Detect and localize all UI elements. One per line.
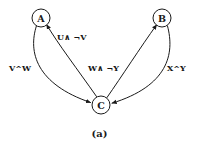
figure-caption: (a) [0, 128, 199, 139]
edge-b-c-path [112, 26, 170, 103]
edge-c-b: W∧ ¬Y [87, 25, 157, 98]
edge-c-b-label: W∧ ¬Y [87, 63, 119, 73]
edge-b-c: X^Y [112, 26, 186, 103]
edge-c-a: U∧ ¬V [47, 25, 97, 97]
edge-c-a-label: U∧ ¬V [57, 32, 87, 42]
node-a-label: A [36, 13, 45, 24]
node-b[interactable]: B [153, 9, 171, 27]
edge-a-c-label: V^W [8, 63, 32, 73]
node-c[interactable]: C [92, 96, 110, 114]
node-c-label: C [97, 100, 105, 111]
node-b-label: B [158, 13, 166, 24]
figure-container: V^W U∧ ¬V W∧ ¬Y X^Y A B C [0, 0, 199, 154]
node-a[interactable]: A [32, 9, 50, 27]
edge-c-b-path [107, 25, 157, 98]
edge-b-c-label: X^Y [167, 63, 186, 73]
